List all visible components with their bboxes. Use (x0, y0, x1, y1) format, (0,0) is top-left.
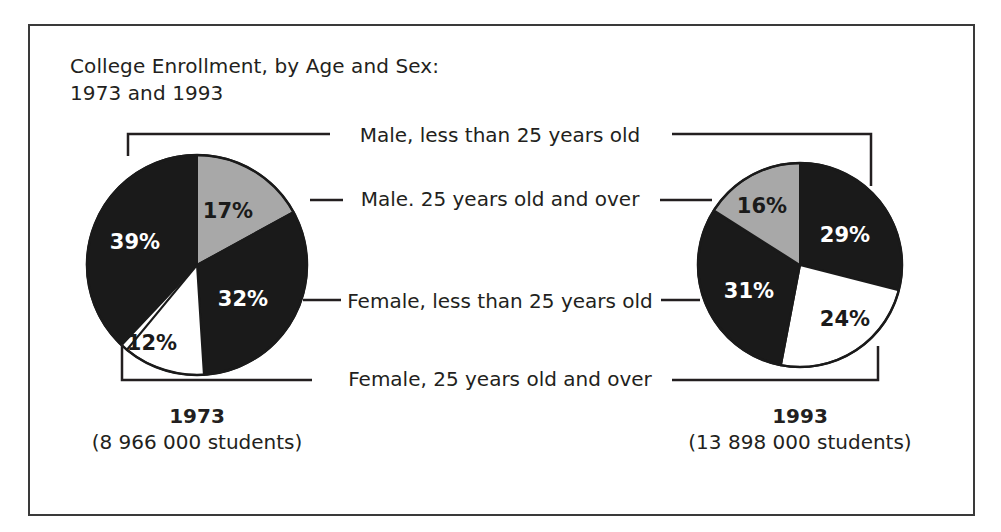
legend-label-male-25-over: Male. 25 years old and over (361, 188, 640, 210)
figure-container: College Enrollment, by Age and Sex: 1973… (0, 0, 1001, 532)
pie-chart-1993: 29%24%31%16% (698, 163, 902, 367)
legend-label-male-under-25: Male, less than 25 years old (360, 124, 641, 146)
pie-chart-1973: 39%17%32%12% (87, 155, 307, 375)
slice-value-label: 12% (127, 331, 177, 355)
pie-caption-1993: 1993(13 898 000 students) (688, 404, 911, 455)
slice-value-label: 16% (737, 194, 787, 218)
caption-student-count: (13 898 000 students) (688, 429, 911, 455)
caption-year: 1993 (688, 404, 911, 429)
legend-label-female-under-25: Female, less than 25 years old (347, 290, 653, 312)
slice-value-label: 39% (110, 230, 160, 254)
slice-value-label: 24% (820, 307, 870, 331)
slice-value-label: 29% (820, 223, 870, 247)
pie-caption-1973: 1973(8 966 000 students) (92, 404, 303, 455)
caption-student-count: (8 966 000 students) (92, 429, 303, 455)
slice-value-label: 17% (203, 199, 253, 223)
slice-value-label: 32% (218, 287, 268, 311)
legend-label-female-25-over: Female, 25 years old and over (348, 368, 652, 390)
slice-value-label: 31% (724, 279, 774, 303)
caption-year: 1973 (92, 404, 303, 429)
